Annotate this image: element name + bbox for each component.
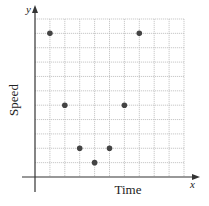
data-point xyxy=(107,145,113,151)
y-axis-letter: y xyxy=(25,3,31,15)
x-axis-label: Time xyxy=(115,182,142,197)
y-axis-label: Speed xyxy=(6,84,21,116)
data-point xyxy=(92,160,98,166)
speed-time-chart: y x Time Speed xyxy=(0,0,209,206)
data-point xyxy=(77,145,83,151)
grid xyxy=(35,19,184,177)
data-point xyxy=(137,31,143,37)
data-point xyxy=(62,102,68,108)
x-axis-letter: x xyxy=(189,178,195,190)
data-point xyxy=(122,102,128,108)
data-point xyxy=(47,31,53,37)
